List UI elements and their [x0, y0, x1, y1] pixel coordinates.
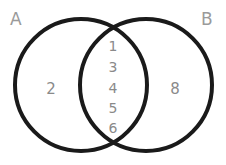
intersection-value: 4: [109, 80, 118, 96]
intersection-values: 1 3 4 5 6: [109, 38, 118, 136]
set-a-only-value: 2: [46, 80, 56, 98]
intersection-value: 5: [109, 100, 118, 116]
set-a-label: A: [10, 9, 22, 29]
set-b-only-value: 8: [170, 80, 180, 98]
intersection-value: 6: [109, 120, 118, 136]
intersection-value: 1: [109, 38, 118, 54]
set-b-label: B: [201, 9, 213, 29]
intersection-value: 3: [109, 59, 118, 75]
venn-diagram: A B 2 8 1 3 4 5 6: [0, 0, 226, 165]
